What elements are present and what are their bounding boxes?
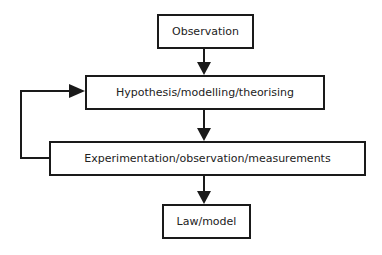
arrowhead-down-icon [197, 62, 211, 75]
law-model-box: Law/model [162, 204, 251, 239]
experimentation-label: Experimentation/observation/measurements [84, 152, 330, 165]
arrowhead-down-icon [197, 191, 211, 204]
observation-box: Observation [157, 14, 254, 49]
observation-label: Observation [172, 25, 239, 38]
experimentation-box: Experimentation/observation/measurements [49, 141, 366, 176]
hypothesis-box: Hypothesis/modelling/theorising [85, 75, 325, 110]
arrowhead-right-icon [69, 84, 85, 98]
arrowhead-down-icon [197, 128, 211, 141]
hypothesis-label: Hypothesis/modelling/theorising [116, 86, 294, 99]
law-model-label: Law/model [177, 215, 237, 228]
